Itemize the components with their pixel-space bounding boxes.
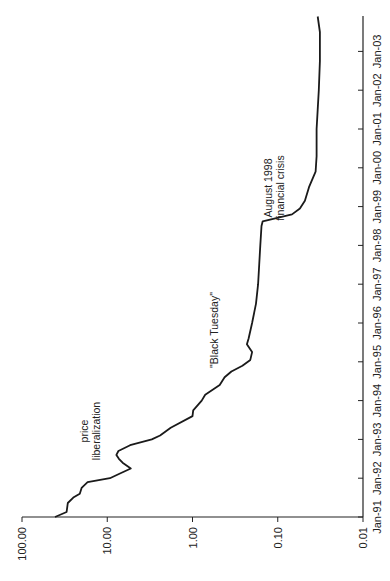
time-tick-label: Jan-98 <box>371 229 383 263</box>
annotation-label: August 1998financial crisis <box>262 155 286 220</box>
annotation-text: "Black Tuesday" <box>208 292 220 368</box>
value-tick-label: 0.10 <box>272 527 284 548</box>
value-tick-label: 1.00 <box>187 527 199 548</box>
line-chart: 100.0010.001.000.100.01 Jan-91Jan-92Jan-… <box>0 0 390 581</box>
annotation-text: price <box>78 419 90 442</box>
value-tick-label: 0.01 <box>357 527 369 548</box>
annotation-text: liberalization <box>90 402 102 461</box>
time-tick-label: Jan-95 <box>371 345 383 379</box>
time-tick-label: Jan-00 <box>371 151 383 185</box>
time-tick-label: Jan-96 <box>371 306 383 340</box>
time-tick-label: Jan-93 <box>371 423 383 457</box>
annotation-label: "Black Tuesday" <box>208 292 220 368</box>
value-tick-label: 10.00 <box>101 527 113 555</box>
time-tick-label: Jan-94 <box>371 384 383 418</box>
x-axis-time: Jan-91Jan-92Jan-93Jan-94Jan-95Jan-96Jan-… <box>358 16 383 534</box>
annotation-text: August 1998 <box>262 158 274 217</box>
annotation-text: financial crisis <box>274 155 286 220</box>
value-tick-label: 100.00 <box>16 527 28 561</box>
time-tick-label: Jan-02 <box>371 73 383 107</box>
time-tick-label: Jan-99 <box>371 190 383 224</box>
time-tick-label: Jan-97 <box>371 267 383 301</box>
annotation-label: priceliberalization <box>78 402 102 461</box>
y-axis-value: 100.0010.001.000.100.01 <box>16 517 369 561</box>
time-tick-label: Jan-01 <box>371 112 383 146</box>
time-tick-label: Jan-03 <box>371 35 383 69</box>
time-tick-label: Jan-92 <box>371 461 383 495</box>
time-tick-label: Jan-91 <box>371 500 383 534</box>
